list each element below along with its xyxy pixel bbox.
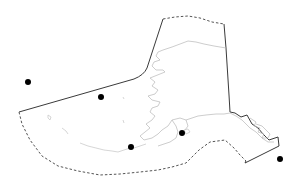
marker-dot[interactable] <box>25 79 31 85</box>
coastline-north <box>150 41 226 78</box>
boundary-west-line <box>19 19 163 112</box>
island-nunivak <box>48 115 51 120</box>
marker-dot[interactable] <box>179 130 185 136</box>
boundary-south-dashed <box>19 112 246 175</box>
map-canvas <box>0 0 300 189</box>
marker-dot[interactable] <box>98 94 104 100</box>
island-small-2 <box>123 120 124 123</box>
alaska-map <box>0 0 300 189</box>
island-st-lawrence <box>62 128 68 134</box>
coastline-south <box>144 113 274 142</box>
island-small-1 <box>123 97 124 99</box>
coastline-panhandle-detail <box>250 118 270 138</box>
alaska-peninsula <box>80 143 146 152</box>
marker-dot[interactable] <box>277 156 283 162</box>
marker-dot[interactable] <box>128 144 134 150</box>
coastline-west <box>140 78 160 140</box>
boundary-arctic-dashed <box>163 16 224 24</box>
